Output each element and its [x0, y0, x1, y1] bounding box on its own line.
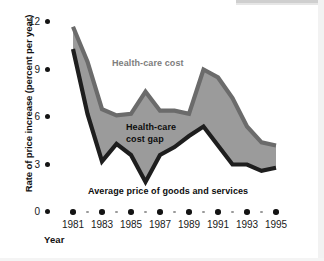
- annotation-health-care-cost-gap: Health-care cost gap: [126, 122, 176, 145]
- x-tick-dot-1987: [157, 209, 163, 215]
- annotation-cost-gap-line-1: Health-care: [126, 122, 176, 134]
- x-axis-title: Year: [44, 234, 64, 245]
- annotation-cost-gap-line-2: cost gap: [126, 134, 176, 146]
- x-tick-dot-1995: [273, 209, 279, 215]
- annotation-health-care-cost: Health-care cost: [112, 58, 184, 68]
- annotation-average-price: Average price of goods and services: [88, 186, 248, 196]
- x-tick-dot-1993: [244, 209, 250, 215]
- x-tick-dot-1983: [99, 209, 105, 215]
- x-tick-dot-1991: [215, 209, 221, 215]
- x-tick-dot-1989: [186, 209, 192, 215]
- chart-figure: Rate of price increase (percent per year…: [0, 0, 324, 261]
- x-tick-label-1995: 1995: [259, 219, 293, 230]
- x-tick-dot-1981: [70, 209, 76, 215]
- x-tick-dot-1985: [128, 209, 134, 215]
